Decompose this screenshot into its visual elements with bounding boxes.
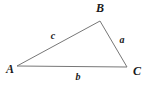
geometry-figure: A B C a b c <box>0 0 150 85</box>
side-label-a: a <box>120 35 125 45</box>
vertex-label-c: C <box>133 65 141 77</box>
side-label-b: b <box>76 72 81 82</box>
vertex-label-b: B <box>96 2 104 14</box>
triangle-shape <box>17 21 127 67</box>
side-label-c: c <box>51 31 55 41</box>
vertex-label-a: A <box>6 63 14 75</box>
